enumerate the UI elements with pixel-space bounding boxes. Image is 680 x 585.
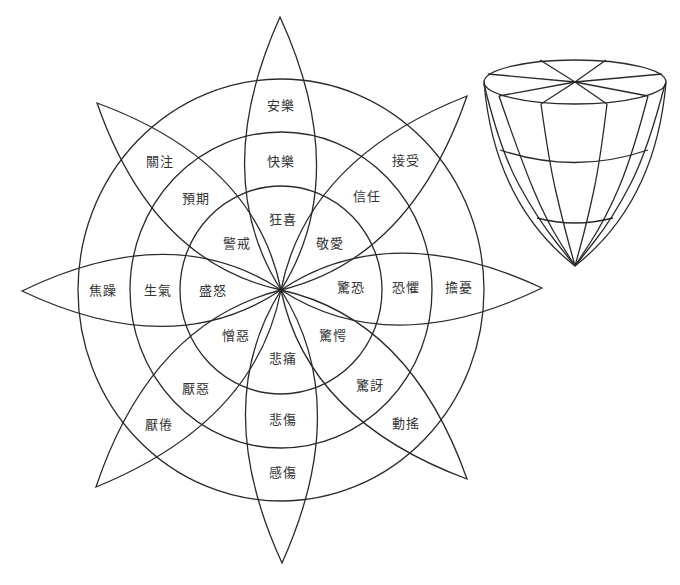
label-trust-outer: 接受 [392, 150, 420, 169]
label-disgust-outer: 厭倦 [145, 414, 173, 433]
center-point [279, 288, 283, 292]
cone-meridian [499, 96, 575, 266]
emotion-cone-3d [484, 60, 666, 266]
label-trust-inner: 敬愛 [316, 233, 344, 252]
label-sadness-inner: 悲痛 [269, 348, 297, 367]
cone-spoke [488, 74, 575, 82]
plutchik-diagram: 安樂快樂狂喜接受信任敬愛擔憂恐懼驚恐動搖驚訝驚愕感傷悲傷悲痛厭倦厭惡憎惡焦躁生氣… [0, 0, 680, 585]
label-sadness-outer: 感傷 [269, 462, 297, 481]
label-fear-inner: 驚恐 [337, 277, 365, 296]
cone-meridian [575, 96, 648, 266]
label-anticipation-middle: 預期 [182, 188, 210, 207]
cone-spoke [575, 74, 662, 82]
cone-meridian [484, 84, 575, 266]
label-disgust-middle: 厭惡 [182, 378, 210, 397]
label-anticipation-inner: 警戒 [223, 233, 251, 252]
label-joy-middle: 快樂 [267, 151, 295, 170]
label-joy-inner: 狂喜 [269, 209, 297, 228]
cone-meridian [575, 84, 665, 266]
label-sadness-middle: 悲傷 [269, 409, 297, 428]
label-anger-outer: 焦躁 [89, 280, 117, 299]
cone-outline-right [575, 82, 666, 266]
label-surprise-inner: 驚愕 [319, 325, 347, 344]
label-disgust-inner: 憎惡 [222, 325, 250, 344]
label-anticipation-outer: 關注 [146, 151, 174, 170]
label-surprise-middle: 驚訝 [356, 375, 384, 394]
cone-meridian [541, 104, 575, 266]
cone-spoke [575, 60, 606, 82]
label-fear-middle: 恐懼 [392, 277, 420, 296]
label-anger-inner: 盛怒 [199, 280, 227, 299]
label-joy-outer: 安樂 [267, 95, 295, 114]
label-trust-middle: 信任 [353, 186, 381, 205]
label-fear-outer: 擔憂 [445, 277, 473, 296]
label-surprise-outer: 動搖 [392, 413, 420, 432]
cone-outline-left [484, 82, 575, 266]
label-anger-middle: 生氣 [144, 280, 172, 299]
